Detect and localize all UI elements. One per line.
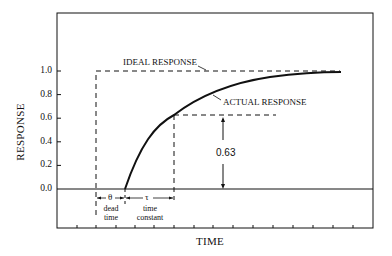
dead-time-label: dead time xyxy=(98,204,124,222)
actual-leader xyxy=(213,95,221,100)
y-tick-0-6: 0.6 xyxy=(22,113,52,123)
y-axis-label: RESPONSE xyxy=(14,102,26,162)
x-axis-label: TIME xyxy=(196,235,224,247)
y-tick-0-0: 0.0 xyxy=(22,184,52,194)
ideal-response-line xyxy=(96,71,340,215)
tau-symbol: τ xyxy=(145,193,149,202)
theta-symbol: θ xyxy=(108,193,112,202)
ideal-leader xyxy=(198,66,206,70)
actual-response-label: ACTUAL RESPONSE xyxy=(223,98,306,107)
y-tick-0-4: 0.4 xyxy=(22,137,52,147)
first-order-response-diagram: 1.0 0.8 0.6 0.4 0.2 0.0 RESPONSE TIME ID… xyxy=(0,0,392,256)
fraction-label: 0.63 xyxy=(216,148,235,158)
plot-frame xyxy=(57,13,373,228)
actual-response-curve xyxy=(125,72,341,189)
time-constant-label: time constant xyxy=(130,204,170,222)
y-tick-0-8: 0.8 xyxy=(22,90,52,100)
ideal-response-label: IDEAL RESPONSE xyxy=(123,58,197,67)
y-tick-0-2: 0.2 xyxy=(22,160,52,170)
plot-graphics xyxy=(0,0,392,256)
y-tick-1-0: 1.0 xyxy=(22,66,52,76)
y-axis-ticks xyxy=(57,71,61,165)
